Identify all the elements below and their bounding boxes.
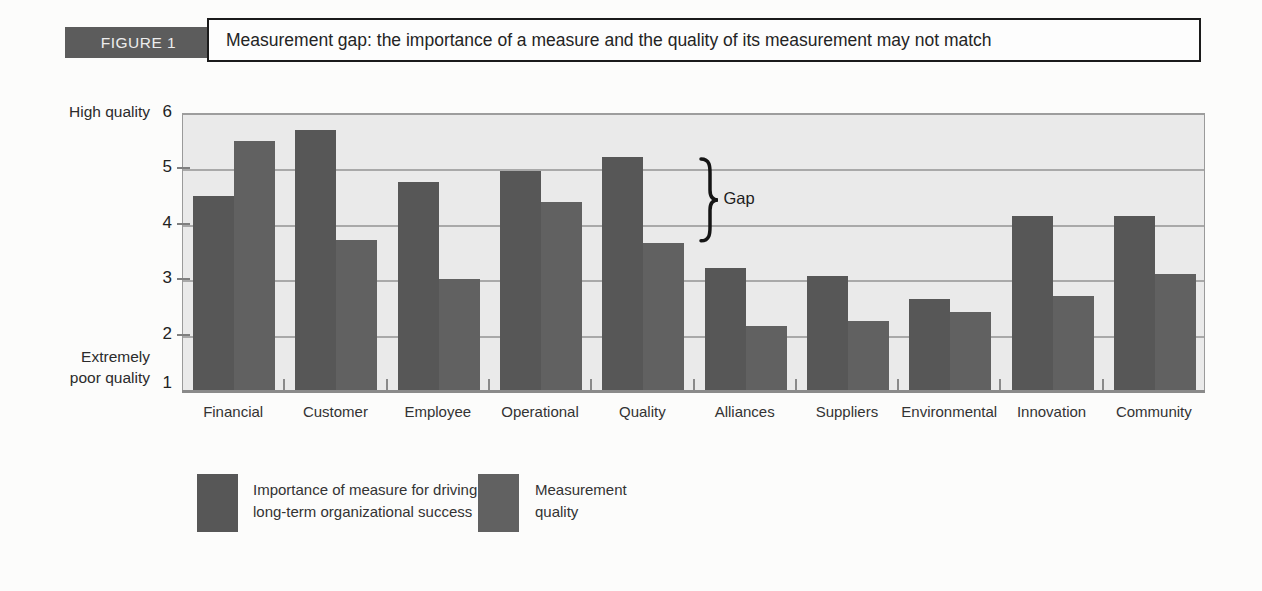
bar-chart: FinancialCustomerEmployeeOperationalQual… bbox=[0, 0, 1262, 591]
category-label-quality: Quality bbox=[591, 403, 693, 420]
bar-importance-environmental bbox=[909, 299, 950, 390]
bar-quality-operational bbox=[541, 202, 582, 390]
bar-quality-customer bbox=[336, 240, 377, 390]
bar-importance-alliances bbox=[705, 268, 746, 390]
bar-importance-customer bbox=[295, 130, 336, 390]
gap-annotation-label: Gap bbox=[724, 189, 755, 208]
legend-label-importance: Importance of measure for driving long-t… bbox=[253, 479, 477, 522]
category-label-environmental: Environmental bbox=[898, 403, 1000, 420]
category-label-operational: Operational bbox=[489, 403, 591, 420]
category-label-employee: Employee bbox=[387, 403, 489, 420]
category-label-suppliers: Suppliers bbox=[796, 403, 898, 420]
bar-quality-employee bbox=[439, 279, 480, 390]
bar-quality-quality bbox=[643, 243, 684, 390]
y-tick-label-2: 2 bbox=[0, 324, 172, 344]
legend-swatch-quality bbox=[478, 474, 519, 532]
legend-swatch-importance bbox=[197, 474, 238, 532]
bar-quality-community bbox=[1155, 274, 1196, 390]
bar-importance-operational bbox=[500, 171, 541, 390]
legend-label-importance-line1: Importance of measure for driving bbox=[253, 479, 477, 501]
x-axis-baseline bbox=[182, 390, 1205, 393]
legend-label-quality-line2: quality bbox=[535, 501, 627, 523]
category-label-community: Community bbox=[1103, 403, 1205, 420]
y-axis-bottom-label: Extremelypoor quality bbox=[0, 346, 150, 388]
category-label-innovation: Innovation bbox=[1000, 403, 1102, 420]
bar-importance-suppliers bbox=[807, 276, 848, 390]
legend-label-quality: Measurement quality bbox=[535, 479, 627, 522]
category-label-financial: Financial bbox=[182, 403, 284, 420]
category-label-alliances: Alliances bbox=[694, 403, 796, 420]
bar-quality-environmental bbox=[950, 312, 991, 390]
plot-area bbox=[182, 113, 1205, 390]
y-axis-top-label: High quality bbox=[0, 101, 150, 122]
bar-quality-innovation bbox=[1053, 296, 1094, 390]
y-tick-label-4: 4 bbox=[0, 213, 172, 233]
y-axis-tick-3 bbox=[177, 278, 190, 280]
bar-importance-community bbox=[1114, 216, 1155, 391]
y-axis-tick-4 bbox=[177, 223, 190, 225]
bar-quality-suppliers bbox=[848, 321, 889, 390]
y-axis-tick-5 bbox=[177, 167, 190, 169]
legend-label-importance-line2: long-term organizational success bbox=[253, 501, 477, 523]
y-tick-label-3: 3 bbox=[0, 268, 172, 288]
category-label-customer: Customer bbox=[284, 403, 386, 420]
scanned-figure-page: FIGURE 1 Measurement gap: the importance… bbox=[0, 0, 1262, 591]
bar-importance-quality bbox=[602, 157, 643, 390]
bar-importance-innovation bbox=[1012, 216, 1053, 391]
bar-quality-financial bbox=[234, 141, 275, 390]
bar-importance-financial bbox=[193, 196, 234, 390]
gap-brace bbox=[698, 157, 720, 243]
y-tick-label-5: 5 bbox=[0, 157, 172, 177]
y-axis-tick-2 bbox=[177, 334, 190, 336]
bar-importance-employee bbox=[398, 182, 439, 390]
legend-label-quality-line1: Measurement bbox=[535, 479, 627, 501]
bar-quality-alliances bbox=[746, 326, 787, 390]
